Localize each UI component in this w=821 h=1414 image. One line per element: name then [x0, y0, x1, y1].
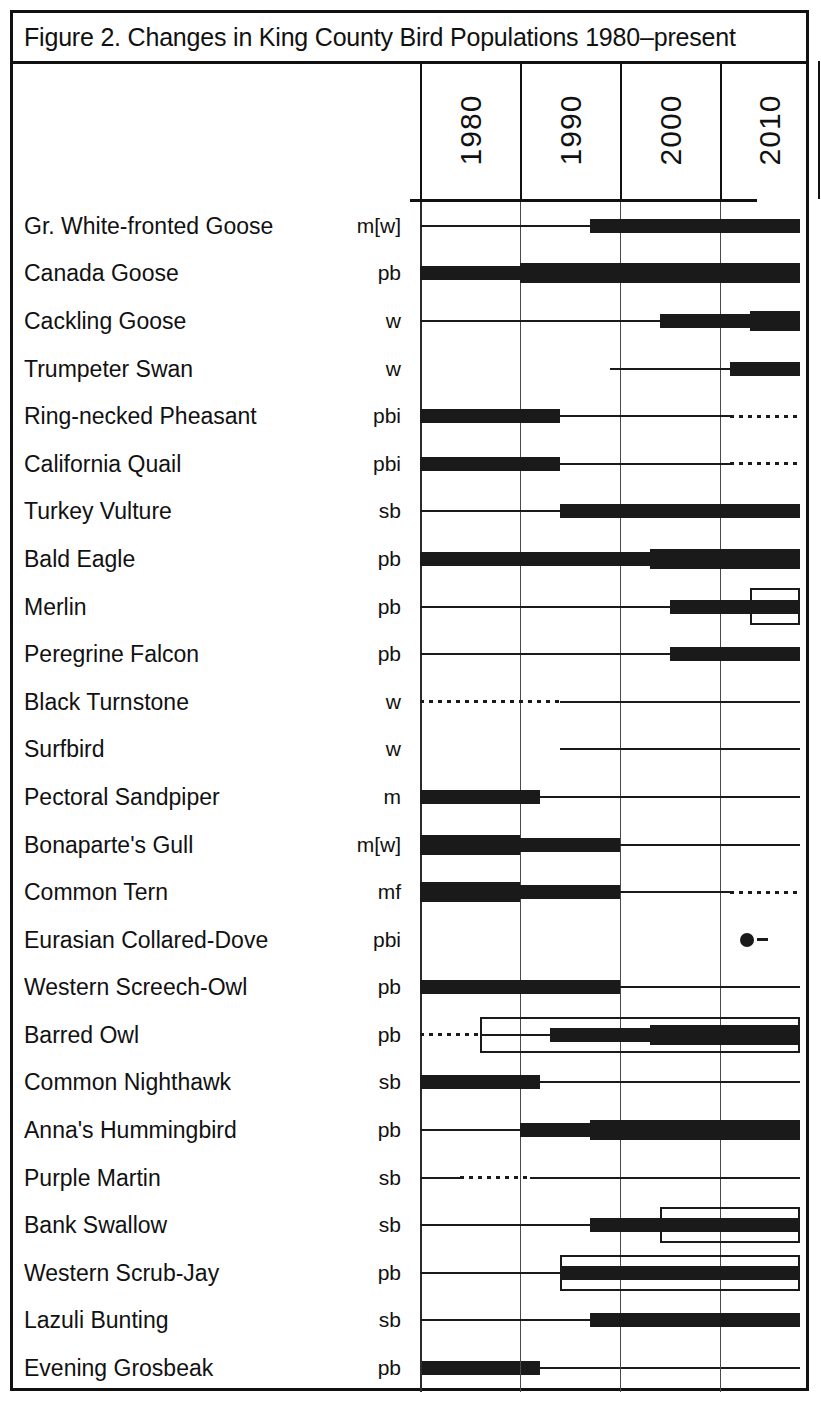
row-plot — [410, 868, 755, 916]
trend-segment-thin — [560, 701, 800, 703]
axis-bottom-stubs — [410, 1354, 755, 1388]
row-plot — [410, 1297, 755, 1345]
trend-segment-dotted — [730, 462, 800, 465]
gridline-2010 — [720, 916, 721, 964]
row-plot — [410, 916, 755, 964]
row-plot — [410, 630, 755, 678]
species-label: Bank Swallow — [24, 1212, 167, 1239]
row-plot — [410, 1154, 755, 1202]
trend-segment-thin — [420, 1224, 590, 1226]
point-marker — [740, 933, 754, 947]
status-code: mf — [313, 880, 401, 904]
trend-segment-dotted — [420, 1033, 480, 1036]
gridline-2010 — [720, 1354, 721, 1388]
chart-row: Gr. White-fronted Goosem[w] — [13, 202, 806, 250]
trend-segment-thin — [620, 844, 800, 846]
trend-segment-xthick — [590, 1120, 800, 1140]
chart-row: Common Nighthawksb — [13, 1059, 806, 1107]
trend-segment-thick — [670, 647, 800, 661]
year-column-1990: 1990 — [520, 61, 620, 199]
trend-segment-thin — [610, 368, 730, 370]
species-label: Lazuli Bunting — [24, 1307, 169, 1334]
gridline-1980 — [420, 916, 422, 964]
status-code: pb — [313, 1261, 401, 1285]
trend-segment-thin — [420, 1177, 460, 1179]
status-code: pb — [313, 261, 401, 285]
chart-row: Ring-necked Pheasantpbi — [13, 392, 806, 440]
trend-segment-thin — [420, 1319, 590, 1321]
status-code: m — [313, 785, 401, 809]
status-code: m[w] — [313, 833, 401, 857]
chart-row: Canada Goosepb — [13, 250, 806, 298]
species-label: Canada Goose — [24, 260, 179, 287]
status-code: sb — [313, 499, 401, 523]
chart-row: Bald Eaglepb — [13, 535, 806, 583]
species-label: Trumpeter Swan — [24, 355, 193, 382]
species-label: Surfbird — [24, 736, 105, 763]
row-plot — [410, 964, 755, 1012]
trend-segment-thick — [520, 1123, 590, 1137]
species-label: Peregrine Falcon — [24, 641, 199, 668]
trend-segment-xthick — [650, 549, 800, 569]
chart-row: Pectoral Sandpiperm — [13, 773, 806, 821]
row-plot — [410, 535, 755, 583]
trend-segment-thick — [730, 362, 800, 376]
status-code: w — [313, 309, 401, 333]
trend-segment-thin — [530, 1177, 800, 1179]
chart-row: Eurasian Collared-Dovepbi — [13, 916, 806, 964]
status-code: pb — [313, 1356, 401, 1380]
row-plot — [410, 392, 755, 440]
status-code: pb — [313, 1023, 401, 1047]
species-label: Black Turnstone — [24, 688, 189, 715]
species-label: Eurasian Collared-Dove — [24, 926, 268, 953]
status-code: pb — [313, 975, 401, 999]
trend-segment-thick — [550, 1028, 650, 1042]
year-label-2000: 2000 — [654, 95, 688, 166]
row-plot — [410, 1059, 755, 1107]
trend-segment-thick — [590, 219, 800, 233]
year-column-1980: 1980 — [420, 61, 520, 199]
trend-segment-thick — [420, 266, 520, 280]
trend-segment-thick — [560, 504, 800, 518]
trend-segment-xthick — [420, 835, 520, 855]
gridline-1990 — [520, 1354, 521, 1388]
trend-segment-thick — [520, 838, 620, 852]
figure-panel: Figure 2. Changes in King County Bird Po… — [10, 10, 809, 1391]
species-label: Bonaparte's Gull — [24, 831, 193, 858]
status-code: pb — [313, 547, 401, 571]
status-code: pb — [313, 642, 401, 666]
trend-segment-dotted — [730, 891, 800, 894]
status-code: pbi — [313, 452, 401, 476]
trend-segment-thin — [420, 1272, 560, 1274]
status-code: sb — [313, 1308, 401, 1332]
point-marker-dash — [757, 938, 768, 941]
status-code: w — [313, 737, 401, 761]
year-header: 1980199020002010 — [410, 61, 755, 199]
trend-segment-dotted — [460, 1176, 530, 1179]
row-plot — [410, 202, 755, 250]
chart-row: Bank Swallowsb — [13, 1201, 806, 1249]
trend-segment-xthick — [420, 882, 520, 902]
chart-row: Anna's Hummingbirdpb — [13, 1106, 806, 1154]
gridline-1980 — [420, 726, 422, 774]
trend-segment-thick — [420, 1075, 540, 1089]
status-code: pbi — [313, 928, 401, 952]
species-label: Bald Eagle — [24, 545, 135, 572]
gridline-1980 — [420, 345, 422, 393]
status-code: sb — [313, 1166, 401, 1190]
trend-segment-thick — [560, 1266, 800, 1280]
row-plot — [410, 297, 755, 345]
trend-segment-thick — [420, 980, 620, 994]
trend-segment-thick — [590, 1313, 800, 1327]
row-plot — [410, 1201, 755, 1249]
chart-row: Lazuli Buntingsb — [13, 1297, 806, 1345]
gridline-1990 — [520, 916, 521, 964]
chart-rows: Gr. White-fronted Goosem[w]Canada Goosep… — [13, 202, 806, 1392]
chart-row: Western Screech-Owlpb — [13, 964, 806, 1012]
trend-segment-thin — [420, 653, 670, 655]
status-code: pbi — [313, 404, 401, 428]
row-plot — [410, 1011, 755, 1059]
year-label-2010: 2010 — [753, 95, 787, 166]
trend-segment-thin — [620, 891, 730, 893]
year-column-2010: 2010 — [720, 61, 820, 199]
